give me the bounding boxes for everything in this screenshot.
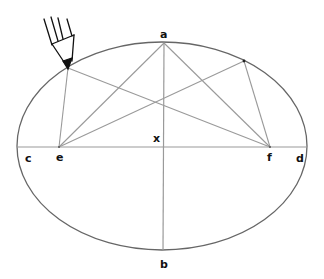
label-a: a [160,29,167,40]
label-d: d [296,153,304,164]
label-e: e [56,152,63,163]
pencil-icon [44,17,74,69]
second-point-marker [243,60,246,63]
line-a-to-e [59,43,164,147]
minor-axis-line [163,43,164,250]
label-b: b [160,259,168,270]
focus-e-marker [58,146,60,148]
ellipse-diagram: a x c e f d b [0,0,324,279]
line-pencil-to-e [59,68,68,147]
label-f: f [267,152,272,163]
label-c: c [25,153,32,164]
label-x: x [153,133,160,144]
diagram-canvas [0,0,324,279]
focus-f-marker [269,146,271,148]
line-second-point-to-e [59,61,244,147]
